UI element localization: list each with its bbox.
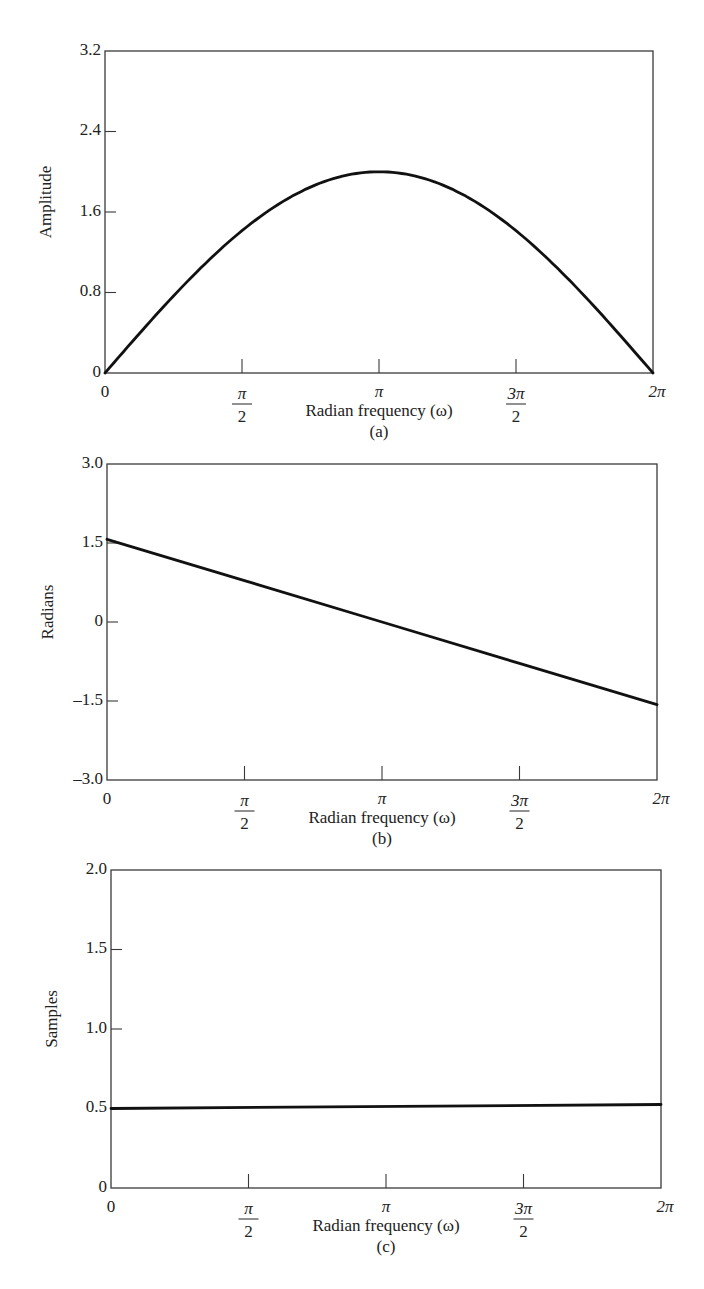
x-tick-label-denominator: 2 — [244, 1222, 253, 1241]
y-axis-label: Radians — [38, 585, 57, 640]
x-tick-label-denominator: 2 — [519, 1222, 528, 1241]
x-tick-label-numerator: π — [240, 791, 249, 810]
x-tick-label-numerator: π — [238, 384, 247, 403]
x-axis-label: Radian frequency (ω) — [312, 1216, 459, 1235]
y-axis-label: Amplitude — [36, 166, 55, 239]
x-tick-label-denominator: 2 — [512, 407, 521, 426]
x-tick-label-numerator: π — [244, 1199, 253, 1218]
subfigure-caption: (a) — [370, 422, 389, 441]
y-tick-label: 0.5 — [86, 1097, 107, 1116]
y-tick-label: 2.0 — [86, 859, 107, 878]
x-tick-label: π — [382, 1197, 391, 1216]
series-line — [111, 1105, 661, 1109]
y-tick-label: 1.5 — [82, 532, 103, 551]
plot-frame — [105, 51, 653, 373]
y-tick-label: 2.4 — [80, 120, 102, 139]
subfigure-caption: (c) — [377, 1237, 396, 1256]
y-tick-label: 0 — [95, 611, 104, 630]
x-tick-label-denominator: 2 — [240, 814, 249, 833]
plot-a-amplitude: 00.81.62.43.20π2π3π22πRadian frequency (… — [36, 40, 666, 441]
x-tick-label-denominator: 2 — [515, 814, 524, 833]
x-tick-label: π — [378, 789, 387, 808]
plot-b-phase: –3.0–1.501.53.00π2π3π22πRadian frequency… — [38, 453, 670, 848]
x-tick-label: 0 — [103, 789, 112, 808]
subfigure-caption: (b) — [372, 829, 392, 848]
y-tick-label: 3.0 — [82, 453, 103, 472]
y-tick-label: 1.0 — [86, 1018, 107, 1037]
y-tick-label: 0 — [93, 362, 102, 381]
plot-c-group-delay: 00.51.01.52.00π2π3π22πRadian frequency (… — [42, 859, 674, 1256]
x-tick-label-numerator: 3π — [510, 791, 529, 810]
y-tick-label: 1.6 — [80, 201, 101, 220]
x-axis-label: Radian frequency (ω) — [305, 401, 452, 420]
y-tick-label: 0 — [99, 1177, 108, 1196]
x-tick-label: 2π — [648, 382, 666, 401]
y-tick-label: 0.8 — [80, 281, 101, 300]
plot-frame — [111, 870, 661, 1188]
y-tick-label: 3.2 — [80, 40, 101, 59]
series-line — [107, 539, 657, 704]
y-tick-label: 1.5 — [86, 938, 107, 957]
x-tick-label: 0 — [101, 382, 110, 401]
figure-canvas: 00.81.62.43.20π2π3π22πRadian frequency (… — [0, 0, 704, 1289]
x-tick-label: π — [375, 382, 384, 401]
y-tick-label: –1.5 — [72, 690, 103, 709]
y-tick-label: –3.0 — [72, 769, 103, 788]
x-tick-label-denominator: 2 — [238, 407, 247, 426]
x-tick-label-numerator: 3π — [514, 1199, 533, 1218]
y-axis-label: Samples — [42, 990, 61, 1048]
x-tick-label: 2π — [652, 789, 670, 808]
series-line — [105, 172, 653, 373]
x-tick-label: 0 — [107, 1197, 116, 1216]
x-tick-label: 2π — [656, 1197, 674, 1216]
x-tick-label-numerator: 3π — [506, 384, 525, 403]
x-axis-label: Radian frequency (ω) — [308, 808, 455, 827]
